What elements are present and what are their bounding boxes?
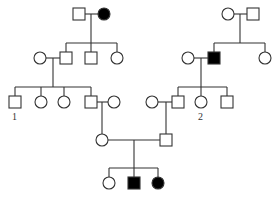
male-square-icon — [9, 96, 21, 108]
affected-female-circle-icon — [98, 8, 110, 20]
affected-male-square-icon — [208, 52, 220, 64]
affected-male-square-icon — [128, 177, 140, 189]
female-circle-icon — [108, 96, 120, 108]
male-square-icon — [221, 96, 233, 108]
pedigree-diagram — [0, 0, 276, 197]
male-square-icon — [60, 52, 72, 64]
female-circle-icon — [146, 96, 158, 108]
individual-symbols — [9, 8, 271, 189]
female-circle-icon — [195, 96, 207, 108]
female-circle-icon — [96, 134, 108, 146]
male-square-icon — [172, 96, 184, 108]
individual-label-1: 1 — [12, 112, 17, 122]
female-circle-icon — [35, 96, 47, 108]
female-circle-icon — [222, 8, 234, 20]
female-circle-icon — [58, 96, 70, 108]
female-circle-icon — [182, 52, 194, 64]
male-square-icon — [160, 134, 172, 146]
individual-label-2: 2 — [198, 112, 203, 122]
affected-female-circle-icon — [152, 177, 164, 189]
female-circle-icon — [259, 52, 271, 64]
female-circle-icon — [111, 52, 123, 64]
female-circle-icon — [34, 52, 46, 64]
male-square-icon — [85, 96, 97, 108]
male-square-icon — [73, 8, 85, 20]
male-square-icon — [247, 8, 259, 20]
male-square-icon — [85, 52, 97, 64]
female-circle-icon — [103, 177, 115, 189]
